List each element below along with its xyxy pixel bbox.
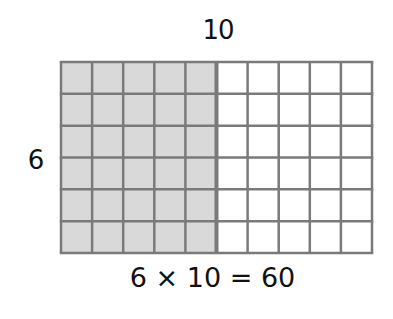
unshaded-cell <box>217 221 248 253</box>
unshaded-cell <box>248 126 279 158</box>
multiplication-equation: 6 × 10 = 60 <box>110 262 315 293</box>
unshaded-cell <box>341 94 372 126</box>
unshaded-cell <box>217 126 248 158</box>
unshaded-cell <box>279 94 310 126</box>
unshaded-cell <box>279 62 310 94</box>
unshaded-cell <box>310 126 341 158</box>
unshaded-cell <box>310 62 341 94</box>
unshaded-cell <box>248 94 279 126</box>
unshaded-cell <box>279 189 310 221</box>
unshaded-cell <box>341 189 372 221</box>
unshaded-cell <box>248 62 279 94</box>
unshaded-cell <box>217 189 248 221</box>
unshaded-cell <box>310 221 341 253</box>
unshaded-cell <box>310 94 341 126</box>
unshaded-cell <box>248 189 279 221</box>
unshaded-cell <box>279 221 310 253</box>
unshaded-cell <box>217 62 248 94</box>
unshaded-cell <box>248 158 279 190</box>
unshaded-cell <box>341 158 372 190</box>
unshaded-cell <box>279 126 310 158</box>
unshaded-cell <box>341 126 372 158</box>
unshaded-cell <box>341 62 372 94</box>
unshaded-cell <box>217 94 248 126</box>
unshaded-cell <box>341 221 372 253</box>
unshaded-cell <box>310 158 341 190</box>
unshaded-cell <box>217 158 248 190</box>
unshaded-cell <box>279 158 310 190</box>
unshaded-cell <box>310 189 341 221</box>
unshaded-cell <box>248 221 279 253</box>
